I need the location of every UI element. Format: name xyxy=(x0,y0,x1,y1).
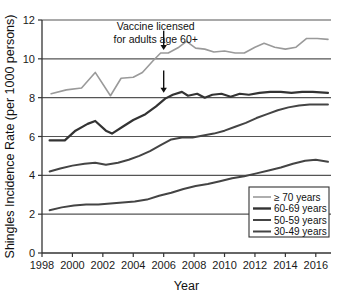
series-line-0 xyxy=(51,38,328,95)
x-axis-title: Year xyxy=(174,279,199,293)
series-line-1 xyxy=(50,92,328,141)
y-tick-label-2: 2 xyxy=(29,208,35,220)
legend-label-2: 50-59 years xyxy=(274,215,327,226)
annotation-line-2: for adults age 60+ xyxy=(114,33,198,45)
legend-label-3: 30-49 years xyxy=(274,226,327,237)
x-tick-label-2006: 2006 xyxy=(151,259,175,271)
y-axis-title: Shingles Incidence Rate (per 1000 person… xyxy=(3,15,17,259)
y-tick-label-10: 10 xyxy=(23,53,35,65)
series-line-2 xyxy=(50,104,328,171)
x-tick-label-2016: 2016 xyxy=(304,259,328,271)
data-series-group xyxy=(50,38,328,210)
x-tick-label-2010: 2010 xyxy=(212,259,236,271)
shingles-incidence-chart: 0246810121998200020022004200620082010201… xyxy=(0,0,346,295)
y-tick-label-0: 0 xyxy=(29,247,35,259)
y-tick-label-6: 6 xyxy=(29,131,35,143)
x-tick-label-1998: 1998 xyxy=(30,259,54,271)
arrow-to-60to69 xyxy=(160,70,166,92)
legend-label-0: ≥ 70 years xyxy=(274,192,321,203)
x-tick-label-2008: 2008 xyxy=(182,259,206,271)
legend-label-1: 60-69 years xyxy=(274,203,327,214)
y-tick-label-12: 12 xyxy=(23,14,35,26)
chart-canvas: 0246810121998200020022004200620082010201… xyxy=(0,0,346,295)
y-tick-label-4: 4 xyxy=(29,169,35,181)
x-tick-label-2012: 2012 xyxy=(243,259,267,271)
x-tick-label-2000: 2000 xyxy=(60,259,84,271)
x-tick-label-2004: 2004 xyxy=(121,259,145,271)
annotation-group: Vaccine licensedfor adults age 60+ xyxy=(114,20,198,93)
legend-box: ≥ 70 years60-69 years50-59 years30-49 ye… xyxy=(249,187,329,237)
y-tick-label-8: 8 xyxy=(29,92,35,104)
annotation-line-1: Vaccine licensed xyxy=(117,20,195,32)
x-tick-label-2014: 2014 xyxy=(273,259,297,271)
x-tick-label-2002: 2002 xyxy=(91,259,115,271)
